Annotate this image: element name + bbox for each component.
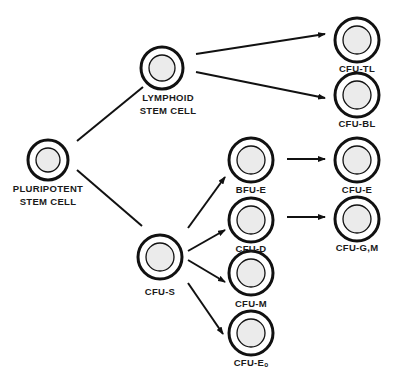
arrow-lymphoid-to-cfu-bl [196, 72, 325, 98]
label-line: LYMPHOID [140, 91, 197, 104]
label-line: CFU-TL [339, 62, 375, 75]
label-cfu-m: CFU-M [235, 297, 267, 310]
arrow-lymphoid-to-cfu-tl [196, 34, 325, 54]
label-line: PLURIPOTENT [13, 182, 83, 195]
label-line: CFU-G,M [336, 241, 379, 254]
cell-nucleus-icon [343, 81, 371, 109]
cell-cfu-d [229, 198, 273, 242]
cell-nucleus-icon [343, 146, 371, 174]
label-cfu-bl: CFU-BL [338, 117, 375, 130]
label-line: CFU-D [235, 242, 266, 255]
cell-nucleus-icon [146, 243, 174, 271]
arrow-cfu-s-to-cfu-m [188, 260, 225, 282]
label-line: CFU-S [145, 285, 176, 298]
cell-bfu-e [229, 138, 273, 182]
label-line: BFU-E [236, 183, 267, 196]
cell-cfu-tl [335, 18, 379, 62]
cell-cfu-bl [335, 73, 379, 117]
arrow-cfu-s-to-bfu-e [188, 177, 225, 228]
label-line: CFU-E [342, 183, 373, 196]
label-cfu-eo: CFU-Eₒ [234, 356, 269, 369]
label-line: STEM CELL [140, 104, 197, 117]
cell-cfu-eo [229, 311, 273, 355]
cell-cfu-s [138, 235, 182, 279]
arrow-cfu-s-to-cfu-d [188, 230, 225, 251]
cell-nucleus-icon [237, 259, 265, 287]
cell-cfu-m [229, 251, 273, 295]
label-cfu-d: CFU-D [235, 242, 266, 255]
arrow-cfu-s-to-cfu-eo [188, 283, 223, 334]
label-cfu-tl: CFU-TL [339, 62, 375, 75]
cell-nucleus-icon [237, 319, 265, 347]
label-line: STEM CELL [13, 195, 83, 208]
label-line: CFU-M [235, 297, 267, 310]
cell-nucleus-icon [237, 146, 265, 174]
cell-nucleus-icon [237, 206, 265, 234]
label-line: CFU-Eₒ [234, 356, 269, 369]
label-cfu-gm: CFU-G,M [336, 241, 379, 254]
cell-nucleus-icon [343, 205, 371, 233]
label-lymphoid: LYMPHOIDSTEM CELL [140, 91, 197, 117]
cell-lymphoid [141, 47, 183, 89]
cell-nucleus-icon [343, 26, 371, 54]
label-pluripotent: PLURIPOTENTSTEM CELL [13, 182, 83, 208]
label-cfu-s: CFU-S [145, 285, 176, 298]
edges-layer [77, 34, 325, 334]
line-pluripotent-to-cfu-s [77, 170, 142, 226]
label-bfu-e: BFU-E [236, 183, 267, 196]
line-pluripotent-to-lymphoid [77, 87, 143, 141]
cell-cfu-e [335, 138, 379, 182]
label-line: CFU-BL [338, 117, 375, 130]
cell-nucleus-icon [36, 148, 60, 172]
cell-pluripotent [28, 140, 68, 180]
cell-nucleus-icon [149, 55, 175, 81]
label-cfu-e: CFU-E [342, 183, 373, 196]
cell-cfu-gm [335, 197, 379, 241]
